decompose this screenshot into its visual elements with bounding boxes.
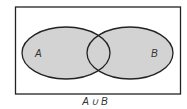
venn-diagram: A B A ∪ B bbox=[0, 0, 187, 109]
set-a-label: A bbox=[34, 48, 42, 59]
set-b-label: B bbox=[151, 48, 158, 59]
diagram-caption: A ∪ B bbox=[81, 96, 108, 107]
